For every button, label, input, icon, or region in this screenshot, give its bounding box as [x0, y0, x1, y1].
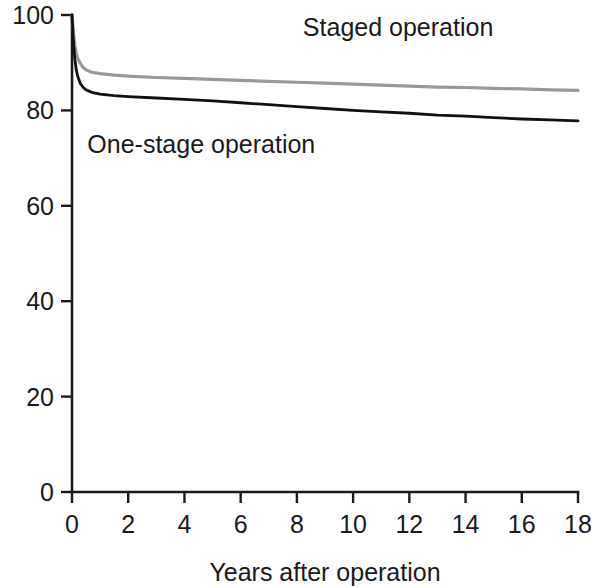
x-tick-label-14: 14: [452, 510, 480, 538]
series-label-one-stage-operation: One-stage operation: [87, 130, 315, 158]
x-tick-label-6: 6: [234, 510, 248, 538]
x-tick-label-0: 0: [65, 510, 79, 538]
series-label-staged-operation: Staged operation: [303, 13, 493, 41]
x-tick-label-2: 2: [121, 510, 135, 538]
x-tick-label-18: 18: [564, 510, 592, 538]
x-tick-label-8: 8: [290, 510, 304, 538]
y-tick-label-0: 0: [40, 478, 54, 506]
x-tick-label-12: 12: [395, 510, 423, 538]
y-tick-label-60: 60: [26, 192, 54, 220]
x-axis-title: Years after operation: [209, 558, 440, 586]
y-tick-label-20: 20: [26, 383, 54, 411]
x-tick-label-10: 10: [339, 510, 367, 538]
x-tick-label-4: 4: [177, 510, 191, 538]
survival-curve-chart: 020406080100024681012141618Staged operat…: [0, 0, 595, 588]
y-tick-label-80: 80: [26, 96, 54, 124]
x-tick-label-16: 16: [508, 510, 536, 538]
y-tick-label-40: 40: [26, 287, 54, 315]
chart-canvas: 020406080100024681012141618Staged operat…: [0, 0, 595, 588]
y-tick-label-100: 100: [12, 1, 54, 29]
